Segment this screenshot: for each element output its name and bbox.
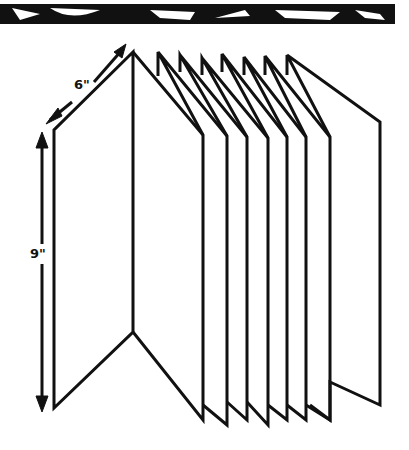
- panel-fold-7: [287, 55, 380, 420]
- panel-fold-1: [158, 52, 227, 425]
- panel-fold-3: [202, 58, 268, 425]
- panel-fold-6: [265, 56, 330, 420]
- height-dimension-label: 9": [30, 247, 46, 261]
- accordion-book-diagram: 6" 9": [0, 0, 409, 450]
- book-pages: [54, 52, 380, 425]
- width-dimension-label: 6": [74, 78, 90, 92]
- panel-front-right: [133, 52, 203, 420]
- decorative-border: [0, 4, 395, 24]
- dimension-arrows: [36, 44, 126, 412]
- diagram-drawing: [0, 0, 409, 450]
